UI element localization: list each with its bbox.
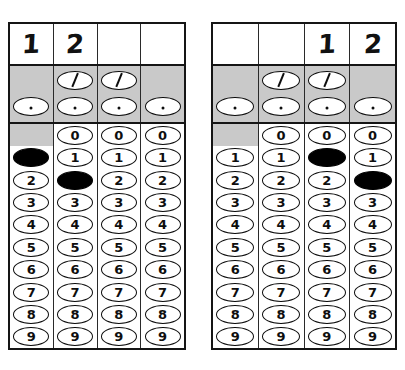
bubble-2[interactable]: 2 [101,171,137,190]
bubble-0[interactable]: 0 [308,126,346,145]
decimal-point-bubble[interactable] [354,97,392,116]
bubble-6[interactable]: 6 [57,260,93,279]
bubble-8[interactable]: 8 [145,305,181,324]
bubble-9[interactable]: 9 [145,327,181,346]
slash-bubble[interactable] [101,71,137,90]
bubble-8[interactable]: 8 [308,305,346,324]
bubble-4[interactable]: 4 [308,215,346,234]
bubble-5[interactable]: 5 [354,238,392,257]
bubble-9[interactable]: 9 [216,327,254,346]
bubble-6[interactable]: 6 [145,260,181,279]
decimal-point-bubble[interactable] [101,97,137,116]
bubble-3[interactable]: 3 [216,193,254,212]
digit-slot-4-0: 0 [141,124,184,146]
bubble-5[interactable]: 5 [13,238,49,257]
bubble-5[interactable]: 5 [308,238,346,257]
decimal-point-bubble[interactable] [262,97,300,116]
bubble-7[interactable]: 7 [57,283,93,302]
bubble-7[interactable]: 7 [308,283,346,302]
decimal-point-bubble[interactable] [57,97,93,116]
bubble-3[interactable]: 3 [145,193,181,212]
filled-bubble-1[interactable]: 1 [308,148,346,167]
decimal-point-bubble[interactable] [308,97,346,116]
bubble-5[interactable]: 5 [262,238,300,257]
bubble-0[interactable]: 0 [145,126,181,145]
bubble-0[interactable]: 0 [101,126,137,145]
bubble-6[interactable]: 6 [101,260,137,279]
bubble-5[interactable]: 5 [57,238,93,257]
written-answer-cell-4[interactable] [140,24,184,64]
decimal-point-bubble[interactable] [13,97,49,116]
bubble-1[interactable]: 1 [216,148,254,167]
bubble-2[interactable]: 2 [13,171,49,190]
bubble-1[interactable]: 1 [57,148,93,167]
bubble-1[interactable]: 1 [354,148,392,167]
written-answer-cell-3[interactable]: 1 [304,24,350,64]
bubble-5[interactable]: 5 [216,238,254,257]
bubble-0[interactable]: 0 [262,126,300,145]
bubble-9[interactable]: 9 [262,327,300,346]
bubble-6[interactable]: 6 [308,260,346,279]
bubble-9[interactable]: 9 [57,327,93,346]
bubble-3[interactable]: 3 [57,193,93,212]
bubble-2[interactable]: 2 [145,171,181,190]
bubble-2[interactable]: 2 [262,171,300,190]
bubble-9[interactable]: 9 [308,327,346,346]
bubble-4[interactable]: 4 [13,215,49,234]
bubble-0[interactable]: 0 [57,126,93,145]
decimal-point-bubble[interactable] [216,97,254,116]
bubble-4[interactable]: 4 [262,215,300,234]
bubble-7[interactable]: 7 [354,283,392,302]
bubble-9[interactable]: 9 [354,327,392,346]
bubble-8[interactable]: 8 [57,305,93,324]
bubble-7[interactable]: 7 [216,283,254,302]
filled-bubble-2[interactable]: 2 [354,171,392,190]
bubble-0[interactable]: 0 [354,126,392,145]
bubble-2[interactable]: 2 [308,171,346,190]
bubble-3[interactable]: 3 [354,193,392,212]
slash-bubble[interactable] [57,71,93,90]
written-answer-cell-1[interactable]: 1 [10,24,53,64]
slash-bubble[interactable] [262,71,300,90]
filled-bubble-2[interactable]: 2 [57,171,93,190]
bubble-4[interactable]: 4 [145,215,181,234]
written-answer-cell-2[interactable]: 2 [53,24,97,64]
bubble-8[interactable]: 8 [13,305,49,324]
bubble-7[interactable]: 7 [13,283,49,302]
bubble-5[interactable]: 5 [101,238,137,257]
bubble-2[interactable]: 2 [216,171,254,190]
digit-slot-1-4: 4 [10,214,53,236]
bubble-6[interactable]: 6 [262,260,300,279]
bubble-8[interactable]: 8 [216,305,254,324]
bubble-3[interactable]: 3 [101,193,137,212]
bubble-8[interactable]: 8 [354,305,392,324]
written-answer-cell-2[interactable] [258,24,304,64]
bubble-3[interactable]: 3 [308,193,346,212]
bubble-3[interactable]: 3 [13,193,49,212]
bubble-7[interactable]: 7 [101,283,137,302]
written-answer-cell-1[interactable] [213,24,258,64]
bubble-5[interactable]: 5 [145,238,181,257]
written-answer-cell-4[interactable]: 2 [349,24,395,64]
bubble-8[interactable]: 8 [101,305,137,324]
filled-bubble-1[interactable]: 1 [13,148,49,167]
bubble-6[interactable]: 6 [354,260,392,279]
bubble-1[interactable]: 1 [101,148,137,167]
slash-bubble[interactable] [308,71,346,90]
bubble-1[interactable]: 1 [262,148,300,167]
bubble-9[interactable]: 9 [13,327,49,346]
bubble-4[interactable]: 4 [101,215,137,234]
bubble-4[interactable]: 4 [57,215,93,234]
written-answer-cell-3[interactable] [97,24,141,64]
bubble-4[interactable]: 4 [216,215,254,234]
bubble-8[interactable]: 8 [262,305,300,324]
bubble-6[interactable]: 6 [216,260,254,279]
bubble-4[interactable]: 4 [354,215,392,234]
bubble-3[interactable]: 3 [262,193,300,212]
bubble-1[interactable]: 1 [145,148,181,167]
bubble-7[interactable]: 7 [145,283,181,302]
bubble-6[interactable]: 6 [13,260,49,279]
decimal-point-bubble[interactable] [145,97,181,116]
bubble-9[interactable]: 9 [101,327,137,346]
bubble-7[interactable]: 7 [262,283,300,302]
